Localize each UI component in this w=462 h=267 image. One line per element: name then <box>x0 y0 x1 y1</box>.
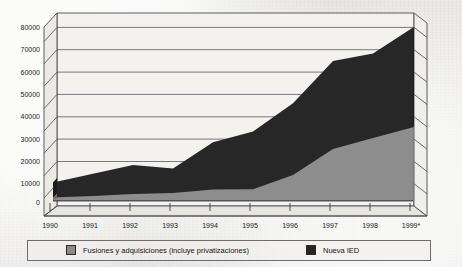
y-tick-label: 50000 <box>21 91 41 98</box>
x-axis-labels: 1990 1991 1992 1993 1994 1995 1996 1997 … <box>42 222 420 229</box>
y-tick-label: 30000 <box>21 136 41 143</box>
area-chart: 80000 70000 60000 50000 40000 30000 2000… <box>0 0 462 267</box>
x-tick-label: 1996 <box>282 222 298 229</box>
legend-item-nueva-ied: Nueva IED <box>306 245 359 255</box>
chart-canvas: 80000 70000 60000 50000 40000 30000 2000… <box>0 0 462 267</box>
y-axis-labels: 80000 70000 60000 50000 40000 30000 2000… <box>21 24 41 206</box>
x-tick-label: 1999* <box>402 222 421 229</box>
y-tick-label: 80000 <box>21 24 41 31</box>
x-tick-label: 1995 <box>242 222 258 229</box>
x-tick-label: 1997 <box>322 222 338 229</box>
y-tick-label: 40000 <box>21 113 41 120</box>
series-nueva-ied-endcap <box>413 27 414 127</box>
legend-item-label: Fusiones y adquisiciones (incluye privat… <box>83 246 249 255</box>
y-tick-label: 20000 <box>21 158 41 165</box>
x-tick-label: 1992 <box>122 222 138 229</box>
legend-swatch-icon <box>306 245 316 255</box>
y-tick-label: 0 <box>36 199 40 206</box>
chart-legend: Fusiones y adquisiciones (incluye privat… <box>27 240 431 261</box>
legend-item-label: Nueva IED <box>323 246 359 255</box>
legend-swatch-icon <box>66 245 76 255</box>
series-fusiones-adquisiciones-endcap <box>413 127 414 206</box>
y-tick-label: 70000 <box>21 46 41 53</box>
x-tick-label: 1994 <box>202 222 218 229</box>
x-tick-label: 1991 <box>82 222 98 229</box>
x-tick-label: 1993 <box>162 222 178 229</box>
legend-item-fusiones-adquisiciones: Fusiones y adquisiciones (incluye privat… <box>66 245 249 255</box>
y-tick-label: 10000 <box>21 180 41 187</box>
y-tick-label: 60000 <box>21 69 41 76</box>
x-tick-label: 1998 <box>362 222 378 229</box>
x-tick-label: 1990 <box>42 222 58 229</box>
